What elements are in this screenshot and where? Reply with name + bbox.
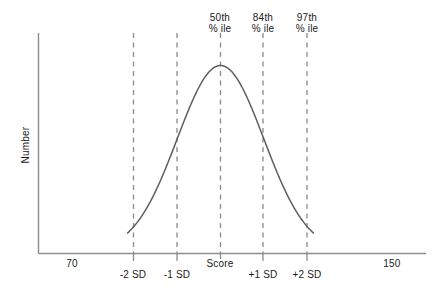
percentile-50th-line1: 50th [209,12,232,23]
percentile-label-97th: 97th % ile [296,12,319,34]
chart-plot-area [0,0,441,297]
percentile-97th-line2: % ile [296,23,319,34]
sd-label-plus-1: +1 SD [248,269,277,280]
x-axis-start-label: 70 [66,258,78,269]
percentile-84th-line2: % ile [252,23,275,34]
sd-label-minus-1: -1 SD [164,269,191,280]
percentile-label-84th: 84th % ile [252,12,275,34]
sd-label-plus-2: +2 SD [292,269,321,280]
percentile-50th-line2: % ile [209,23,232,34]
x-axis-end-label: 150 [383,258,400,269]
x-axis-title: Score [206,258,233,269]
normal-distribution-chart: 50th % ile 84th % ile 97th % ile Number … [0,0,441,297]
sd-label-minus-2: -2 SD [120,269,147,280]
percentile-97th-line1: 97th [296,12,319,23]
percentile-label-50th: 50th % ile [209,12,232,34]
percentile-84th-line1: 84th [252,12,275,23]
y-axis-title: Number [20,127,31,164]
